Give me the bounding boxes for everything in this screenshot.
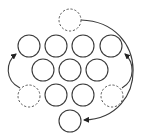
circles-group: [18, 35, 122, 132]
circle-r1c4: [100, 35, 122, 57]
circle-r3c2: [72, 84, 94, 106]
arrow-right-to-topright: [122, 54, 132, 88]
circle-r1c1: [18, 35, 40, 57]
circle-r3c1: [45, 84, 67, 106]
arrow-left-to-topleft: [8, 54, 20, 88]
circle-bottom: [59, 110, 81, 132]
circle-rearrangement-diagram: [0, 0, 148, 138]
dashed-circle-right-origin: [101, 85, 123, 107]
circle-r2c1: [32, 59, 54, 81]
circle-r2c2: [59, 59, 81, 81]
circle-r2c3: [86, 59, 108, 81]
original-positions-group: [18, 9, 123, 107]
circle-r1c3: [72, 35, 94, 57]
circle-r1c2: [45, 35, 67, 57]
dashed-circle-left-origin: [18, 85, 40, 107]
dashed-circle-top-origin: [59, 9, 81, 31]
